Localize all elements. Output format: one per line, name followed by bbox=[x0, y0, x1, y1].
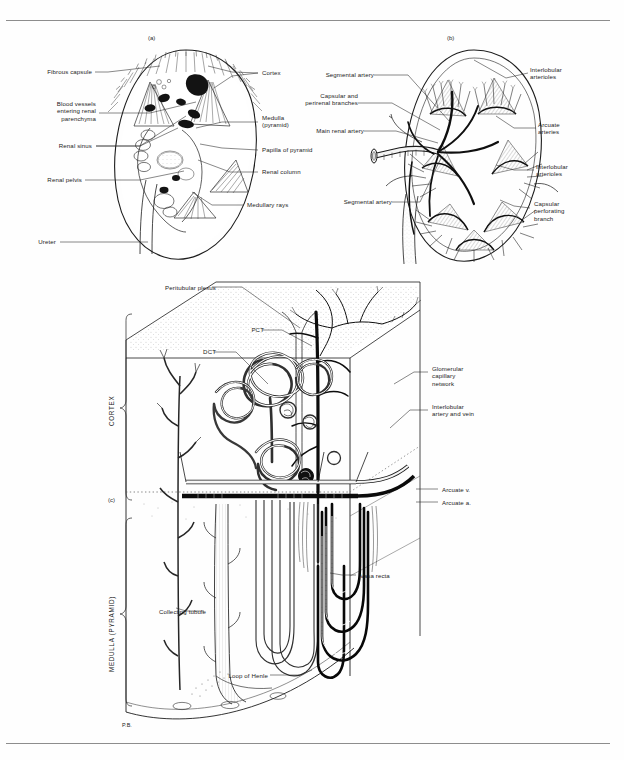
label-interlobular-arterioles-mid: Interlobular arterioles bbox=[536, 163, 568, 178]
label-segmental-artery-bottom: Segmental artery bbox=[318, 198, 392, 205]
label-pb: P.B. bbox=[122, 722, 132, 729]
label-renal-pelvis: Renal pelvis bbox=[10, 176, 82, 183]
label-renal-column: Renal column bbox=[262, 168, 301, 175]
label-arcuate-vein: Arcuate v. bbox=[442, 486, 470, 493]
label-capsular-perirenal-branches: Capsular and perirenal branches bbox=[280, 92, 358, 107]
label-fibrous-capsule: Fibrous capsule bbox=[10, 68, 92, 75]
panel-b-leaders bbox=[300, 0, 624, 280]
label-dct: DCT bbox=[182, 348, 216, 355]
label-renal-sinus: Renal sinus bbox=[10, 142, 92, 149]
label-cortex: Cortex bbox=[262, 69, 281, 76]
label-glomerular-capillary-network: Glomerular capillary network bbox=[432, 365, 463, 387]
label-collecting-tubule: Collecting tubule bbox=[140, 608, 206, 615]
label-ureter: Ureter bbox=[10, 238, 56, 245]
label-vasa-recta: Vasa recta bbox=[360, 572, 390, 579]
label-main-renal-artery: Main renal artery bbox=[286, 127, 364, 134]
label-blood-vessels-entering-renal-parenchyma: Blood vessels entering renal parenchyma bbox=[10, 100, 96, 122]
label-medullary-rays: Medullary rays bbox=[247, 201, 288, 208]
panel-c-leaders bbox=[0, 270, 624, 750]
label-medulla-pyramid: Medulla (pyramid) bbox=[262, 114, 289, 129]
label-loop-of-henle: Loop of Henle bbox=[206, 672, 268, 679]
label-interlobular-arterioles-top: Interlobular arterioles bbox=[530, 66, 562, 81]
label-arcuate-arteries: Arcuate arteries bbox=[538, 121, 560, 136]
label-segmental-artery-top: Segmental artery bbox=[300, 71, 374, 78]
label-peritubular-plexus: Peritubular plexus bbox=[148, 284, 216, 291]
label-arcuate-artery: Arcuate a. bbox=[442, 499, 471, 506]
label-pct: PCT bbox=[230, 326, 264, 333]
figure-page: (a) bbox=[0, 0, 624, 760]
label-interlobular-artery-and-vein: Interlobular artery and vein bbox=[432, 403, 474, 418]
label-capsular-perforating-branch: Capsular perforating branch bbox=[534, 200, 564, 222]
